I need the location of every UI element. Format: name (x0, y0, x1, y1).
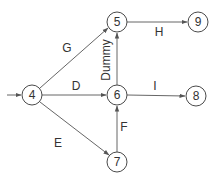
edge-label-I: I (153, 79, 156, 93)
edge-label-D: D (72, 79, 81, 93)
node-8-label: 8 (193, 89, 200, 103)
node-4-label: 4 (29, 88, 36, 102)
edge-label-G: G (62, 41, 71, 55)
node-7: 7 (107, 152, 127, 172)
node-4: 4 (22, 85, 42, 105)
node-7-label: 7 (114, 155, 121, 169)
edge-label-dummy: Dummy (99, 39, 113, 80)
edge-E-4-7 (40, 102, 109, 155)
network-diagram: G H D I E F Dummy 4 5 9 6 8 7 (0, 0, 220, 183)
edge-label-E: E (54, 136, 62, 150)
node-9: 9 (188, 12, 208, 32)
node-8: 8 (186, 86, 206, 106)
node-5-label: 5 (114, 15, 121, 29)
node-6: 6 (107, 85, 127, 105)
edge-label-H: H (155, 25, 164, 39)
edge-I-6-8 (127, 95, 185, 96)
node-6-label: 6 (114, 88, 121, 102)
edge-label-F: F (120, 120, 127, 134)
node-9-label: 9 (195, 15, 202, 29)
node-5: 5 (107, 12, 127, 32)
